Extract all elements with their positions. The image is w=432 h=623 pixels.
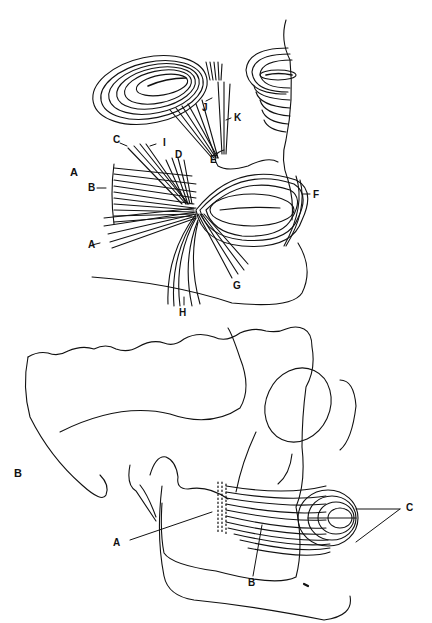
panel-b-label: B: [14, 468, 22, 479]
callout-a-G: G: [233, 281, 241, 291]
buccinator-fibers: [226, 486, 330, 555]
depressor-muscles: [168, 214, 248, 306]
glabella-lines: [206, 62, 222, 80]
skull-outline: [28, 327, 313, 581]
left-eye-muscle: [86, 46, 213, 135]
panel-a-drawing: [86, 20, 307, 306]
callout-a-F: F: [313, 190, 319, 200]
anatomy-illustration: [0, 0, 432, 623]
nasal-cavity: [340, 380, 356, 450]
callout-a-A: A: [88, 240, 95, 250]
callout-b-B: B: [248, 578, 255, 588]
dotted-origin: [218, 482, 226, 534]
chin-outline: [92, 243, 307, 305]
callout-a-B: B: [88, 183, 95, 193]
callout-a-I: I: [163, 138, 166, 148]
callout-a-D: D: [175, 150, 182, 160]
callout-a-K: K: [234, 113, 241, 123]
callout-a-H: H: [179, 308, 186, 318]
condyle: [129, 465, 156, 521]
callout-a-C: C: [113, 135, 120, 145]
callout-b-C: C: [406, 503, 413, 513]
panel-b-leaders: [130, 509, 400, 576]
panel-b-drawing: [25, 327, 358, 620]
callout-a-E: E: [210, 155, 217, 165]
orbit: [253, 357, 343, 453]
zygomatic-arch: [60, 328, 246, 432]
orbicularis-oris-lateral: [298, 490, 358, 546]
buccinator-lines: [112, 164, 196, 224]
skull-back: [25, 357, 107, 497]
mandible-ramus: [159, 486, 350, 620]
maxilla-suture: [236, 432, 292, 492]
callout-a-J: J: [202, 103, 208, 113]
callout-b-A: A: [113, 538, 120, 548]
mental-foramen: [304, 584, 308, 586]
orbicularis-oris: [196, 174, 308, 246]
panel-a-label: A: [70, 167, 78, 178]
panel-a-leaders: [92, 98, 310, 305]
